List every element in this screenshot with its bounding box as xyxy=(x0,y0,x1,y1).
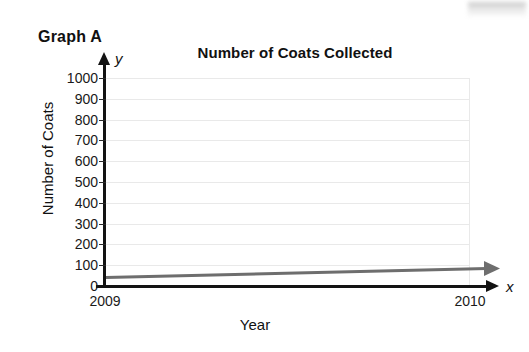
x-tick-label-2010: 2010 xyxy=(437,293,503,309)
y-tick-mark xyxy=(99,140,106,141)
y-tick-label: 600 xyxy=(75,154,98,168)
data-line-arrowhead-icon xyxy=(484,261,500,276)
y-axis-line xyxy=(103,62,106,287)
gridline-1000 xyxy=(105,78,470,79)
gridline-200 xyxy=(105,244,470,245)
y-tick-label: 200 xyxy=(75,237,98,251)
y-axis-arrow-icon xyxy=(98,52,110,65)
y-tick-mark xyxy=(99,78,106,79)
y-tick-label: 500 xyxy=(75,175,98,189)
plot-right-border xyxy=(469,78,470,286)
x-tick-label-2009: 2009 xyxy=(72,293,138,309)
y-axis-variable-letter: y xyxy=(115,50,123,67)
gridline-900 xyxy=(105,99,470,100)
y-tick-label: 1000 xyxy=(67,71,98,85)
y-tick-mark xyxy=(99,224,106,225)
y-tick-mark xyxy=(99,120,106,121)
y-axis-title: Number of Coats xyxy=(39,64,56,254)
gridline-700 xyxy=(105,140,470,141)
gridline-600 xyxy=(105,161,470,162)
y-tick-label: 700 xyxy=(75,133,98,147)
y-tick-mark xyxy=(99,203,106,204)
x-axis-title: Year xyxy=(185,316,325,333)
gridline-400 xyxy=(105,203,470,204)
gridline-500 xyxy=(105,182,470,183)
chart-title: Number of Coats Collected xyxy=(105,44,485,61)
y-tick-mark xyxy=(99,161,106,162)
y-tick-mark xyxy=(99,182,106,183)
y-tick-mark xyxy=(99,99,106,100)
x-axis-arrow-icon xyxy=(486,280,499,292)
y-tick-mark xyxy=(99,265,106,266)
gridline-800 xyxy=(105,120,470,121)
scan-smudge-artifact xyxy=(468,2,526,18)
x-axis-line xyxy=(96,285,488,288)
y-tick-label: 0 xyxy=(90,279,98,293)
y-tick-label: 300 xyxy=(75,217,98,231)
gridline-100 xyxy=(105,265,470,266)
gridline-300 xyxy=(105,224,470,225)
y-tick-label: 400 xyxy=(75,196,98,210)
y-tick-mark xyxy=(99,244,106,245)
y-tick-label: 900 xyxy=(75,92,98,106)
graph-figure: Graph A Number of Coats Collected y x 10… xyxy=(0,0,529,352)
y-tick-label: 100 xyxy=(75,258,98,272)
y-tick-label: 800 xyxy=(75,113,98,127)
plot-area xyxy=(105,78,470,286)
x-axis-variable-letter: x xyxy=(506,278,514,295)
